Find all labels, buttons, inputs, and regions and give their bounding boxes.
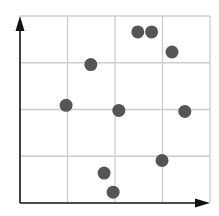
data-point — [145, 25, 158, 38]
data-point — [60, 99, 73, 112]
data-point — [178, 105, 191, 118]
data-point — [156, 154, 169, 167]
data-point — [107, 186, 120, 199]
x-axis-arrow-icon — [195, 199, 210, 208]
data-points — [60, 25, 192, 198]
scatter-chart — [0, 0, 219, 216]
data-point — [166, 46, 179, 59]
data-point — [98, 167, 111, 180]
data-point — [84, 58, 97, 71]
y-axis-arrow-icon — [16, 16, 25, 31]
data-point — [131, 25, 144, 38]
data-point — [112, 104, 125, 117]
